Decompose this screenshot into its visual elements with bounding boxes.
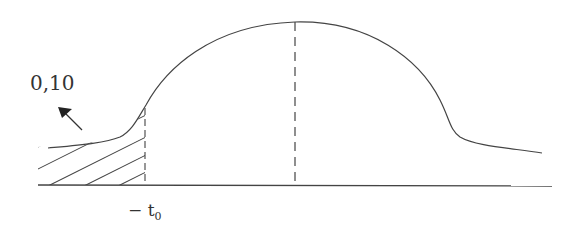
shaded-value-label: 0,10 <box>30 71 75 95</box>
diagram-figure: 0,10 − t0 <box>0 0 576 227</box>
pointer-arrow <box>58 107 82 130</box>
time-marker-subscript: 0 <box>154 210 161 223</box>
baseline-axis <box>38 185 552 186</box>
time-marker-prefix: − t <box>128 200 155 220</box>
time-marker-label: − t0 <box>128 200 161 223</box>
